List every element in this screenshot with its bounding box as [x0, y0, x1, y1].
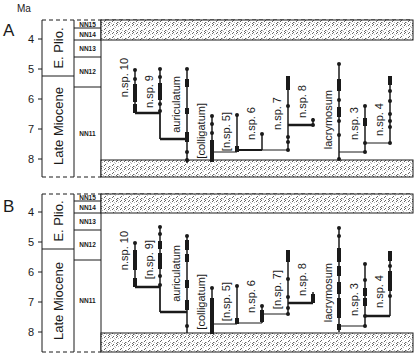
axis-unit-label: Ma [17, 3, 31, 14]
taxon-label: [colligatum] [195, 103, 207, 159]
zone-label: NN14 [79, 31, 96, 38]
taxon-label: n.sp. 10 [118, 58, 130, 97]
stratigraphic-range-chart: Ma A 4 5 6 7 8 E. Plio. Late Miocene [0, 0, 417, 359]
taxon-label: [n.sp. 7] [271, 270, 283, 309]
taxon-label: n.sp. 6 [245, 280, 257, 313]
taxon-label: n.sp. 4 [373, 275, 385, 308]
zone-label: NN11 [79, 130, 96, 137]
panel-a: A 4 5 6 7 8 E. Plio. Late Miocene NN15 [3, 20, 413, 177]
taxon-label: [n.sp. 5] [220, 112, 232, 151]
epoch-label-late-miocene: Late Miocene [51, 262, 66, 340]
taxon-label: n.sp. 7 [271, 97, 283, 130]
epoch-label-late-miocene: Late Miocene [51, 87, 66, 165]
zone-label: NN13 [79, 218, 96, 225]
taxon-label: auriculatum [170, 245, 182, 302]
hatched-bar-top [101, 20, 413, 40]
panel-b: B 4 5 6 7 8 E. Plio. Late Miocene NN15 N… [3, 194, 413, 352]
tick-label: 8 [28, 326, 34, 338]
zone-label: NN12 [79, 241, 96, 248]
taxon-label: n.sp. 8 [296, 85, 308, 118]
panel-label-b: B [3, 197, 14, 216]
hatched-bar-top [101, 194, 413, 213]
taxon-label: n.sp. 8 [296, 263, 308, 296]
zone-label: NN12 [79, 68, 96, 75]
taxon-label: [n.sp. 5] [220, 282, 232, 321]
zone-label: NN15 [79, 194, 96, 201]
zone-label: NN15 [79, 21, 96, 28]
epoch-label-e-plio: E. Plio. [51, 200, 66, 241]
zone-label: NN13 [79, 45, 96, 52]
taxon-label: n.sp. 4 [373, 103, 385, 136]
taxon-label: n.sp. 3 [348, 283, 360, 316]
tick-label: 7 [28, 296, 34, 308]
hatched-bar-bottom [101, 333, 413, 352]
tick-label: 6 [28, 93, 34, 105]
tick-label: 5 [28, 236, 34, 248]
y-axis-ticks: 4 5 6 7 8 [28, 33, 42, 165]
taxon-label: [colligatum] [195, 274, 207, 330]
panel-label-a: A [3, 21, 15, 40]
taxon-label: n.sp. 3 [348, 107, 360, 140]
epoch-label-e-plio: E. Plio. [51, 27, 66, 68]
taxon-label: auriculatum [170, 76, 182, 133]
taxon-label: lacrymosum [322, 263, 334, 322]
tick-label: 5 [28, 63, 34, 75]
tick-label: 4 [28, 206, 34, 218]
taxon-label: n.sp. 10 [118, 231, 130, 270]
taxon-labels: n.sp. 10 n.sp. 9 auriculatum [colligatum… [118, 58, 385, 159]
taxon-label: n.sp. 9 [143, 75, 155, 108]
zone-label: NN11 [79, 297, 96, 304]
tick-label: 8 [28, 153, 34, 165]
tick-label: 6 [28, 266, 34, 278]
hatched-bar-bottom [101, 160, 413, 177]
taxon-label: lacrymosum [322, 90, 334, 149]
taxon-label: n.sp. 6 [245, 107, 257, 140]
taxon-label: [n.sp. 9] [143, 240, 155, 279]
y-axis-ticks: 4 5 6 7 8 [28, 206, 42, 338]
zone-label: NN14 [79, 204, 96, 211]
tick-label: 7 [28, 123, 34, 135]
tick-label: 4 [28, 33, 34, 45]
